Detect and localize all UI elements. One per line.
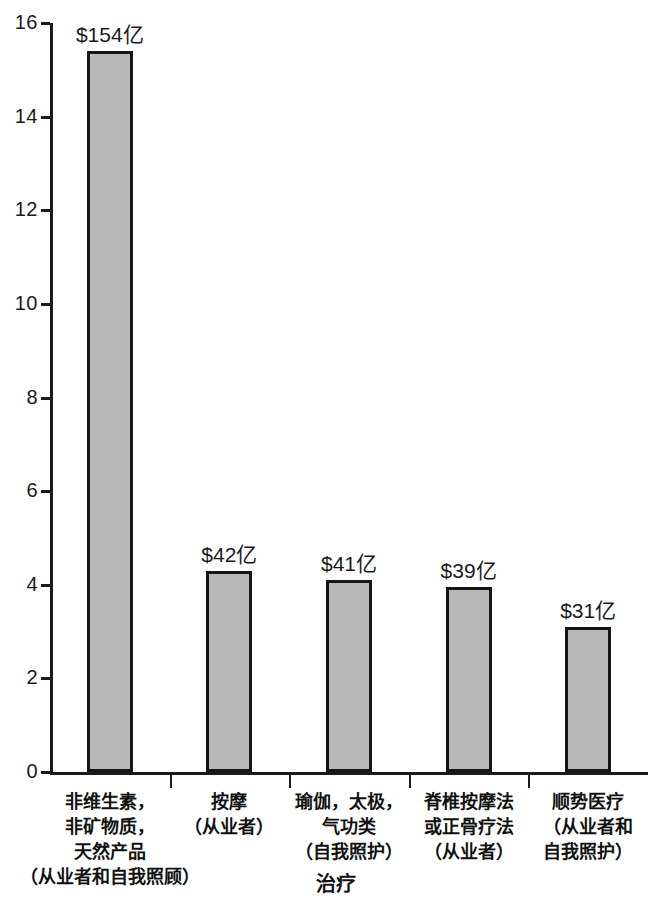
- bar-value-label: $39亿: [399, 560, 539, 582]
- y-axis-tick-label-text: 4: [4, 574, 38, 594]
- bar: [446, 587, 492, 772]
- y-axis-tick-label: 10: [0, 293, 38, 313]
- bar-chart: 1614121086420 $154亿$42亿$41亿$39亿$31亿 非维生素…: [0, 0, 651, 903]
- bar-value-label: $31亿: [518, 600, 651, 622]
- y-axis-tick-label: 0: [0, 761, 38, 781]
- bar: [326, 580, 372, 772]
- y-axis-tick-label: 12: [0, 199, 38, 219]
- y-axis-tick-label-text: 6: [4, 480, 38, 500]
- y-axis-tick-label-text: 8: [4, 387, 38, 407]
- x-axis-line: [50, 772, 648, 775]
- x-axis-category-label-line: 天然产品: [0, 840, 220, 865]
- y-axis-tick-label-text: 16: [4, 12, 38, 32]
- y-axis-tick-label: 16: [0, 12, 38, 32]
- y-axis-tick: [41, 584, 50, 587]
- x-axis-tick: [289, 775, 291, 788]
- y-axis-tick-label: 6: [0, 480, 38, 500]
- y-axis-tick-label-text: 14: [4, 106, 38, 126]
- y-axis-tick: [41, 209, 50, 212]
- bar: [87, 51, 133, 772]
- y-axis-tick-label: 14: [0, 106, 38, 126]
- x-axis-category-label-line: 自我照护）: [478, 840, 651, 865]
- x-axis-tick: [170, 775, 172, 788]
- y-axis-tick-label-text: 0: [4, 761, 38, 781]
- x-axis-title: 治疗: [0, 872, 651, 896]
- x-axis-category-label-line: 顺势医疗: [478, 790, 651, 815]
- y-axis-line: [50, 23, 53, 773]
- y-axis-tick: [41, 677, 50, 680]
- y-axis-tick-label: 2: [0, 667, 38, 687]
- bar: [206, 571, 252, 772]
- y-axis-tick-label-text: 10: [4, 293, 38, 313]
- bar-value-label: $154亿: [40, 24, 180, 46]
- y-axis-tick-label: 4: [0, 574, 38, 594]
- y-axis-tick: [41, 116, 50, 119]
- y-axis-tick-label-text: 12: [4, 199, 38, 219]
- bar: [565, 627, 611, 772]
- x-axis-tick: [528, 775, 530, 788]
- x-axis-tick: [409, 775, 411, 788]
- y-axis-tick-label: 8: [0, 387, 38, 407]
- y-axis-tick: [41, 397, 50, 400]
- x-axis-category-label: 顺势医疗（从业者和自我照护）: [478, 790, 651, 865]
- y-axis-tick: [41, 771, 50, 774]
- y-axis-tick-label-text: 2: [4, 667, 38, 687]
- y-axis-tick: [41, 303, 50, 306]
- x-axis-category-label-line: （从业者和: [478, 815, 651, 840]
- y-axis-tick: [41, 490, 50, 493]
